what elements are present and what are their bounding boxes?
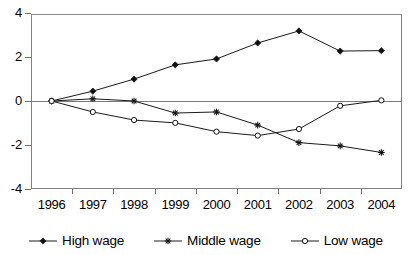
data-point [214,129,219,134]
data-point [296,28,302,34]
data-point [296,139,303,146]
data-point [255,133,260,138]
data-point [337,48,343,54]
series-line [52,31,382,101]
legend-label: Middle wage [187,234,261,248]
data-point [131,76,137,82]
series-layer [0,0,411,255]
data-point [337,143,344,150]
data-point [378,149,385,156]
wage-index-line-chart: 420-2-4 19961997199819992000200120022003… [0,0,411,255]
data-point [296,126,301,131]
series-line [52,99,382,153]
data-point [131,98,138,105]
data-point [90,88,96,94]
legend-item-low-wage[interactable]: Low wage [290,234,383,248]
data-point [172,62,178,68]
data-point [49,98,54,103]
chart-legend: High wageMiddle wageLow wage [0,230,411,252]
data-point [378,48,384,54]
data-point [254,122,261,129]
series-high-wage [49,28,385,104]
data-point [90,109,95,114]
legend-item-middle-wage[interactable]: Middle wage [153,234,261,248]
series-low-wage [49,98,384,138]
data-point [255,40,261,46]
data-point [90,96,97,103]
legend-label: Low wage [324,234,383,248]
data-point [213,109,220,116]
data-point [379,98,384,103]
legend-marker-icon [153,234,183,248]
legend-label: High wage [62,234,124,248]
series-middle-wage [48,96,384,156]
legend-item-high-wage[interactable]: High wage [28,234,124,248]
data-point [338,103,343,108]
data-point [213,56,219,62]
legend-marker-icon [28,234,58,248]
data-point [173,120,178,125]
data-point [131,117,136,122]
legend-marker-icon [290,234,320,248]
data-point [172,110,179,117]
